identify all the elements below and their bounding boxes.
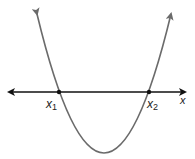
parabola-curve [37, 14, 171, 153]
x-axis-label: x [179, 94, 186, 106]
root-point-x2 [147, 90, 151, 94]
parabola-diagram: x1 x2 x [0, 0, 195, 159]
root-label-x2: x2 [146, 97, 158, 112]
root-point-x1 [57, 90, 61, 94]
root-label-x1: x1 [45, 97, 57, 112]
